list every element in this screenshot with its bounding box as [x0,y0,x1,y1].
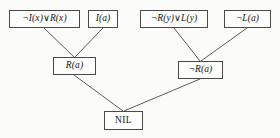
clause-label: ¬L(a) [235,14,260,23]
edge-clause2-to-resolvent1 [75,28,103,57]
clause-node-not-L-a: ¬L(a) [224,10,271,28]
clause-label: ¬I(x)∨R(x) [21,14,67,23]
clause-label: ¬R(y)∨L(y) [150,14,199,23]
edge-clause1-to-resolvent1 [44,28,74,57]
edge-clause3-to-resolvent2 [174,28,200,61]
clause-node-I-a: I(a) [88,10,118,28]
resolvent-node-R-a: R(a) [53,57,96,75]
clause-node-not-I-x-or-R-x: ¬I(x)∨R(x) [9,10,80,28]
edge-resolvent1-to-nil [74,75,123,111]
clause-label: I(a) [95,14,112,23]
resolvent-node-not-R-a: ¬R(a) [178,61,223,79]
empty-clause-node-nil: NIL [104,111,143,130]
resolution-proof-tree: ¬I(x)∨R(x) I(a) ¬R(y)∨L(y) ¬L(a) R(a) ¬R… [0,0,280,138]
edge-resolvent2-to-nil [124,79,200,111]
clause-label: R(a) [65,61,84,71]
clause-label: NIL [114,116,133,126]
clause-node-not-R-y-or-L-y: ¬R(y)∨L(y) [140,10,208,28]
clause-label: ¬R(a) [188,65,214,75]
edge-clause4-to-resolvent2 [201,28,247,61]
